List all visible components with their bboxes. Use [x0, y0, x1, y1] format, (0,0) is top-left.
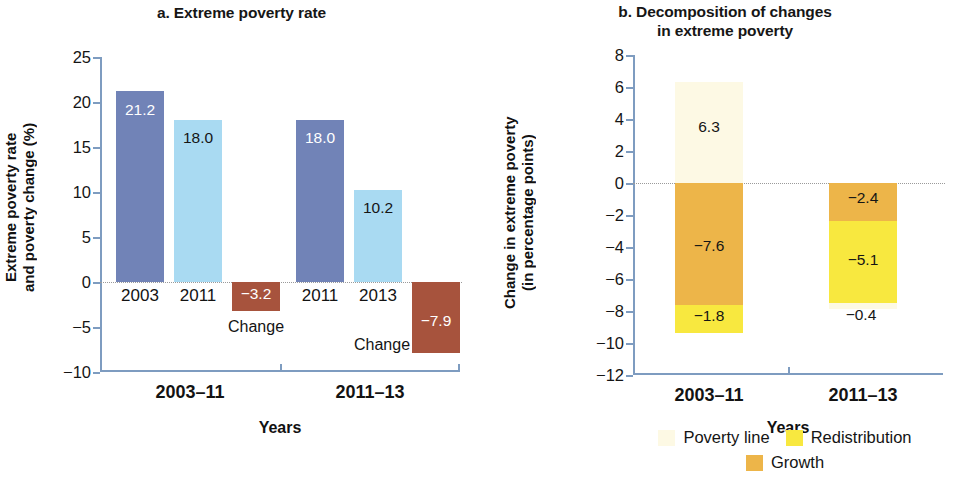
panel-a-ticklabel-10: 10 [73, 183, 91, 202]
bar-category-change-group1: Change [228, 318, 284, 336]
panel-a-tick-5 [93, 237, 100, 239]
panel-a-ticklabel-minus10: −10 [63, 363, 91, 382]
panel-a-ticklabel-20: 20 [73, 93, 91, 112]
panel-b-xcat-2011-13: 2011–13 [828, 385, 897, 406]
stack-label-2011-13-growth: −2.4 [848, 189, 879, 207]
bar-category-2013: 2013 [359, 286, 397, 306]
bar-category-change-group2: Change [354, 336, 410, 354]
legend-row-1: Poverty line Redistribution [603, 428, 967, 447]
panel-b-tick-minus10 [626, 343, 633, 345]
panel-b-tick-minus12 [626, 375, 633, 377]
panel-b-ticklabel-2: 2 [615, 142, 624, 161]
panel-a-x-axis-right-tick [458, 364, 460, 372]
panel-b-tick-2 [626, 151, 633, 153]
stack-label-2003-11-poverty-line: 6.3 [698, 118, 720, 136]
panel-b-tick-minus8 [626, 311, 633, 313]
panel-a-ticklabel-5: 5 [82, 228, 91, 247]
panel-b-x-axis-mid-tick [788, 367, 790, 375]
panel-decomposition: b. Decomposition of changes in extreme p… [483, 0, 967, 486]
panel-b-tick-minus2 [626, 215, 633, 217]
bar-category-2003: 2003 [121, 286, 159, 306]
legend-label-growth: Growth [771, 453, 824, 472]
bar-label-2011-rate-group2: 18.0 [305, 129, 335, 147]
panel-b-y-axis-title: Change in extreme poverty (in percentage… [501, 68, 543, 358]
panel-b-y-axis [633, 55, 635, 375]
panel-a-zero-line [100, 282, 462, 283]
legend-item-redistribution[interactable]: Redistribution [786, 428, 912, 447]
panel-b-ticklabel-minus2: −2 [605, 206, 624, 225]
panel-a-tick-0 [93, 282, 100, 284]
panel-b-tick-0 [626, 183, 633, 185]
bar-label-change-2003-11: −3.2 [241, 285, 272, 303]
legend-item-poverty-line[interactable]: Poverty line [658, 428, 769, 447]
panel-b-ticklabel-6: 6 [615, 78, 624, 97]
legend-row-2: Growth [603, 453, 967, 472]
panel-a-tick-20 [93, 102, 100, 104]
stack-label-2003-11-redistribution: −1.8 [694, 307, 725, 325]
legend-item-growth[interactable]: Growth [746, 453, 824, 472]
panel-extreme-poverty-rate: a. Extreme poverty rate Extreme poverty … [0, 0, 483, 486]
panel-b-ticklabel-4: 4 [615, 110, 624, 129]
panel-b-tick-6 [626, 87, 633, 89]
legend-swatch-redistribution [786, 430, 803, 446]
panel-a-ticklabel-0: 0 [82, 273, 91, 292]
panel-b-tick-minus6 [626, 279, 633, 281]
panel-b-ticklabel-minus8: −8 [605, 302, 624, 321]
panel-a-ticklabel-minus5: −5 [72, 318, 91, 337]
stack-label-2011-13-redistribution: −5.1 [848, 251, 879, 269]
panel-b-ticklabel-8: 8 [615, 46, 624, 65]
legend-swatch-growth [746, 455, 763, 471]
bar-category-2011-group1: 2011 [180, 286, 217, 306]
panel-b-tick-minus4 [626, 247, 633, 249]
legend-swatch-poverty-line [658, 430, 675, 446]
panel-a-tick-15 [93, 147, 100, 149]
legend-label-redistribution: Redistribution [811, 428, 912, 447]
panel-a-plot-area: 25 20 15 10 5 0 −5 −10 21.2 200 [100, 57, 460, 372]
panel-b-ticklabel-minus12: −12 [596, 366, 624, 385]
panel-a-xcat-2003-11: 2003–11 [155, 382, 224, 403]
figure: a. Extreme poverty rate Extreme poverty … [0, 0, 967, 486]
panel-a-x-axis-title: Years [259, 419, 302, 437]
panel-b-plot-area: 8 6 4 2 0 −2 −4 −6 −8 −10 −12 [633, 55, 943, 375]
bar-category-2011-group2: 2011 [302, 286, 339, 306]
panel-b-ticklabel-0: 0 [615, 174, 624, 193]
bar-label-2013-rate: 10.2 [363, 199, 393, 217]
legend: Poverty line Redistribution Growth [603, 428, 967, 472]
bar-label-2003-rate: 21.2 [125, 101, 155, 119]
panel-a-tick-25 [93, 57, 100, 59]
stack-label-2003-11-growth: −7.6 [694, 237, 725, 255]
bar-2003-rate [116, 91, 164, 282]
panel-b-tick-8 [626, 55, 633, 57]
panel-a-y-axis-title: Extreme poverty rate and poverty change … [2, 62, 44, 352]
panel-b-title: b. Decomposition of changes in extreme p… [483, 2, 967, 40]
panel-b-ticklabel-minus10: −10 [596, 334, 624, 353]
panel-a-x-axis-mid-tick [280, 364, 282, 372]
panel-a-tick-10 [93, 192, 100, 194]
panel-b-tick-4 [626, 119, 633, 121]
stack-label-2011-13-poverty-line: −0.4 [846, 306, 877, 324]
panel-a-tick-minus10 [93, 372, 100, 374]
bar-label-change-2011-13: −7.9 [421, 312, 452, 330]
panel-a-xcat-2011-13: 2011–13 [335, 382, 404, 403]
panel-a-title: a. Extreme poverty rate [0, 3, 483, 22]
panel-a-ticklabel-15: 15 [73, 138, 91, 157]
panel-a-y-axis [100, 57, 102, 372]
panel-b-ticklabel-minus4: −4 [605, 238, 624, 257]
bar-label-2011-rate-group1: 18.0 [183, 129, 213, 147]
panel-a-ticklabel-25: 25 [73, 48, 91, 67]
panel-b-xcat-2003-11: 2003–11 [674, 385, 743, 406]
legend-label-poverty-line: Poverty line [683, 428, 769, 447]
panel-b-ticklabel-minus6: −6 [605, 270, 624, 289]
panel-a-tick-minus5 [93, 327, 100, 329]
